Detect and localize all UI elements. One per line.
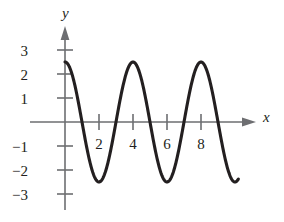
- y-tick-label-neg3: −3: [0, 188, 28, 203]
- graph-figure: 3 2 1 −1 −2 −3 2 4 6 8 y x: [0, 0, 284, 222]
- coordinate-plot: [0, 0, 284, 222]
- x-tick-label-8: 8: [191, 137, 211, 152]
- x-tick-label-4: 4: [123, 137, 143, 152]
- y-axis-arrowhead: [61, 26, 70, 40]
- y-tick-label-neg1: −1: [0, 140, 28, 155]
- y-tick-label-2: 2: [0, 68, 28, 83]
- y-tick-label-neg2: −2: [0, 164, 28, 179]
- y-axis-label: y: [62, 6, 69, 21]
- y-tick-label-3: 3: [0, 44, 28, 59]
- x-tick-label-2: 2: [89, 137, 109, 152]
- x-axis-arrowhead: [242, 118, 256, 127]
- x-tick-label-6: 6: [157, 137, 177, 152]
- axes-group: [30, 26, 256, 210]
- x-axis-label: x: [263, 110, 270, 125]
- y-tick-label-1: 1: [0, 92, 28, 107]
